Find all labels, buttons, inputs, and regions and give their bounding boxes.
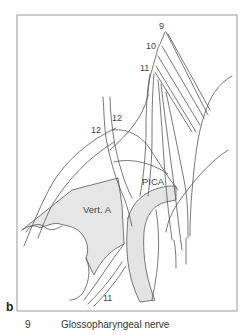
legend-number: 9 bbox=[25, 319, 61, 330]
label-vertebral-artery: Vert. A bbox=[83, 204, 112, 215]
panel-letter: b bbox=[6, 300, 13, 314]
label-pica: PICA bbox=[142, 176, 165, 187]
label-9: 9 bbox=[159, 21, 164, 31]
label-11-top: 11 bbox=[140, 63, 149, 73]
label-12-a: 12 bbox=[112, 113, 122, 123]
anatomical-figure: 9 10 11 12 12 Vert. A PICA 11 b 9Glossop… bbox=[0, 0, 251, 335]
label-10: 10 bbox=[146, 41, 156, 51]
label-12-b: 12 bbox=[91, 125, 101, 135]
legend-item: 9Glossopharyngeal nerve bbox=[25, 319, 169, 330]
figure-frame bbox=[17, 15, 237, 311]
diagram-canvas: 9 10 11 12 12 Vert. A PICA 11 bbox=[0, 0, 251, 335]
label-11-bottom: 11 bbox=[103, 293, 112, 303]
legend-description: Glossopharyngeal nerve bbox=[61, 319, 169, 330]
